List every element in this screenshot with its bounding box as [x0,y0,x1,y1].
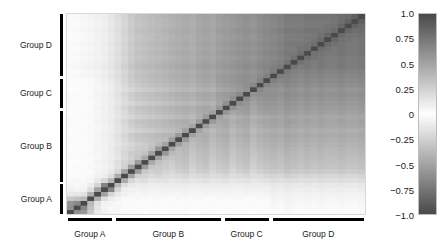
y-group-label-group-a: Group A [21,194,52,204]
x-group-bar-group-a [68,218,112,221]
colorbar-tick-8: −1.0 [395,210,414,221]
x-group-label-group-d: Group D [302,228,334,240]
heatmap-matrix [67,14,365,214]
y-axis-group-labels: Group AGroup BGroup CGroup D [0,13,57,215]
colorbar-tick-4: 0 [409,109,414,120]
y-group-label-group-c: Group C [20,88,52,98]
correlation-heatmap-figure: Group AGroup BGroup CGroup D Group AGrou… [0,0,443,251]
x-group-bar-group-d [273,218,364,221]
colorbar-tick-2: 0.5 [401,58,414,69]
y-group-bar-group-b [60,111,63,182]
colorbar-tick-0: 1.0 [401,8,414,19]
x-axis-group-labels: Group AGroup BGroup CGroup D [66,228,366,244]
colorbar-tick-3: 0.25 [396,83,415,94]
colorbar-tick-7: −0.75 [390,184,414,195]
x-group-label-group-c: Group C [231,228,263,240]
y-group-bar-group-a [60,184,63,214]
x-group-bar-group-b [116,218,221,221]
x-group-label-group-a: Group A [74,228,105,240]
colorbar-tick-labels: 1.00.750.50.250−0.25−0.5−0.75−1.0 [372,13,414,215]
heatmap-plot-area [66,13,366,215]
x-group-label-group-b: Group B [152,228,184,240]
y-group-label-group-b: Group B [20,141,52,151]
colorbar-tick-6: −0.5 [395,159,414,170]
x-axis-group-bars [66,218,366,222]
y-group-bar-group-d [60,14,63,76]
x-group-bar-group-c [225,218,269,221]
y-group-bar-group-c [60,79,63,109]
colorbar-gradient [419,14,436,214]
y-group-label-group-d: Group D [20,40,52,50]
colorbar-tick-5: −0.25 [390,134,414,145]
y-axis-group-bars [60,13,64,215]
colorbar [418,13,437,215]
colorbar-tick-1: 0.75 [396,33,415,44]
